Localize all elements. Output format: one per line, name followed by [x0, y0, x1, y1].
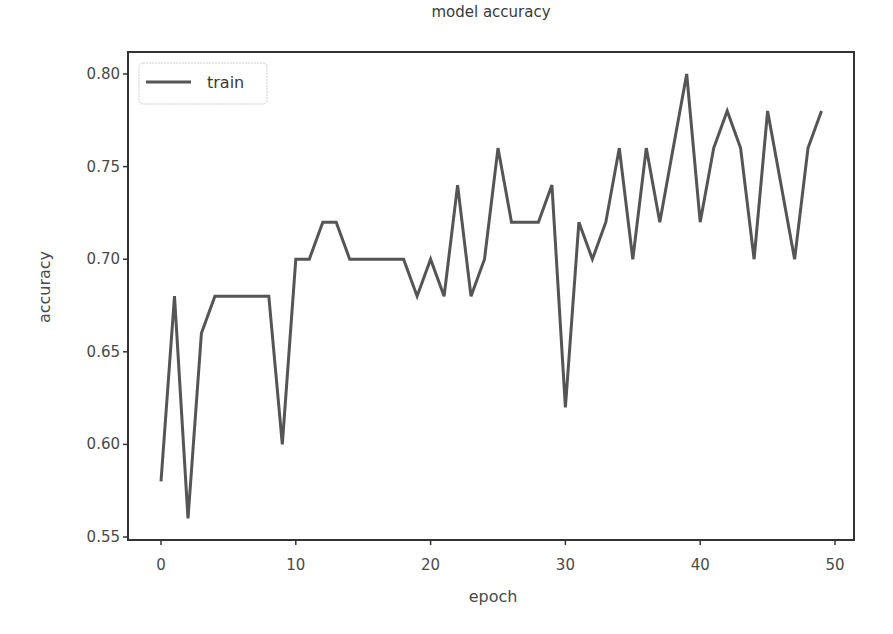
y-tick-label: 0.55 [87, 528, 120, 546]
x-tick-label: 50 [825, 556, 844, 574]
y-tick-label: 0.70 [87, 250, 120, 268]
y-tick-label: 0.65 [87, 343, 120, 361]
x-axis-label: epoch [469, 587, 518, 606]
y-axis: 0.550.600.650.700.750.80 [87, 65, 128, 546]
x-tick-label: 30 [556, 556, 575, 574]
train-line [161, 74, 822, 519]
legend: train [139, 63, 267, 104]
y-tick-label: 0.75 [87, 158, 120, 176]
y-axis-label: accuracy [35, 251, 54, 323]
chart-title: model accuracy [431, 3, 550, 21]
x-tick-label: 40 [691, 556, 710, 574]
x-tick-label: 10 [286, 556, 305, 574]
y-tick-label: 0.80 [87, 65, 120, 83]
y-tick-label: 0.60 [87, 435, 120, 453]
series-train-line [161, 74, 822, 519]
legend-label-train: train [207, 73, 244, 92]
x-tick-label: 0 [156, 556, 166, 574]
x-axis: 01020304050 [156, 540, 844, 574]
x-tick-label: 20 [421, 556, 440, 574]
accuracy-chart: model accuracy 0.550.600.650.700.750.80 … [0, 0, 893, 634]
